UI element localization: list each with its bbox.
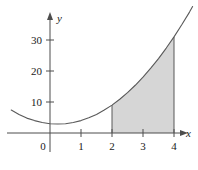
x-tick-label: 1 [78, 140, 84, 152]
shaded-area-region [112, 37, 174, 133]
plot-canvas: 102030 01234 y x [0, 0, 198, 170]
y-tick-label: 10 [31, 96, 43, 108]
x-tick-label: 4 [171, 140, 177, 152]
x-tick-label: 0 [40, 140, 46, 152]
y-tick-label: 20 [31, 65, 43, 77]
x-tick-label: 3 [140, 140, 146, 152]
graph-figure: 102030 01234 y x [0, 0, 198, 170]
x-axis-label: x [185, 127, 191, 139]
y-axis-arrowhead [47, 12, 53, 20]
y-axis-label: y [56, 12, 62, 24]
x-tick-label: 2 [109, 140, 115, 152]
y-tick-label: 30 [31, 34, 43, 46]
y-axis [47, 12, 53, 152]
y-axis-ticks: 102030 [31, 34, 54, 108]
